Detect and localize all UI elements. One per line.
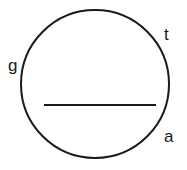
- diagram-background: [0, 0, 187, 170]
- diagram-canvas: g t a: [0, 0, 187, 170]
- label-g: g: [8, 57, 17, 74]
- circle-diagram-graphic: [0, 0, 187, 170]
- label-a: a: [164, 128, 173, 145]
- label-t: t: [164, 26, 169, 43]
